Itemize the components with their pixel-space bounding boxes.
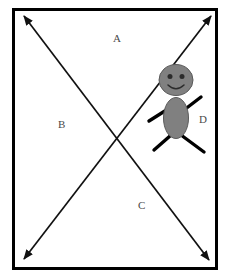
figure-eye-right <box>180 74 185 79</box>
figure-torso <box>164 98 189 139</box>
region-label-b: B <box>58 119 65 130</box>
figure-head <box>159 65 193 96</box>
region-label-d: D <box>199 114 207 125</box>
region-label-c: C <box>138 200 145 211</box>
region-label-a: A <box>113 33 121 44</box>
right-leg-line <box>181 135 204 152</box>
figure-eye-left <box>168 74 173 79</box>
diagram-canvas: A B C D <box>0 0 230 278</box>
left-leg-line <box>154 136 170 150</box>
